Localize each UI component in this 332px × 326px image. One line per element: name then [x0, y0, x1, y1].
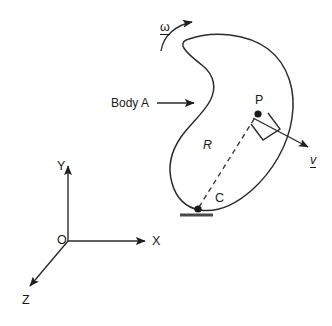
velocity-label: v — [310, 154, 316, 168]
axis-z-label: Z — [22, 294, 30, 307]
kinematics-diagram: ω Body A P C R v O Y X Z — [0, 0, 332, 326]
angular-velocity-label: ω — [160, 21, 170, 35]
axis-z-line — [30, 241, 68, 286]
axis-x-label: X — [152, 235, 160, 248]
body-label: Body A — [111, 97, 149, 109]
point-c-label: C — [215, 192, 224, 205]
point-p-label: P — [255, 94, 263, 107]
point-p-dot — [254, 110, 261, 117]
right-angle-marker — [251, 113, 280, 140]
diagram-canvas — [0, 0, 332, 326]
axis-y-label: Y — [57, 160, 65, 173]
origin-label: O — [57, 234, 67, 247]
velocity-vector-arrow — [253, 118, 308, 147]
point-c-dot — [194, 205, 201, 212]
radius-label: R — [203, 139, 212, 152]
